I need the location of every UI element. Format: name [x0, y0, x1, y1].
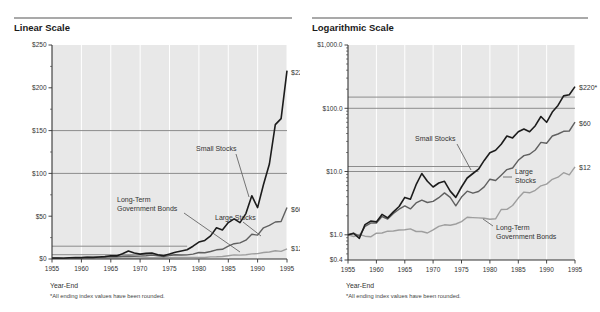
series-end-label: $60 — [579, 120, 591, 127]
y-tick-label: $1,000.0 — [317, 41, 343, 48]
series-annotation: Large Stocks — [215, 214, 256, 222]
series-annotation: Small Stocks — [415, 135, 456, 142]
linear-scale-chart: Linear Scale $250$200$150$100$50$0195519… — [0, 0, 300, 312]
footnote: *All ending index values have been round… — [50, 293, 165, 299]
x-tick-label: 1985 — [221, 265, 236, 272]
y-tick-label: $10.0 — [326, 168, 343, 175]
x-tick-label: 1985 — [511, 266, 526, 273]
x-tick-label: 1960 — [74, 265, 89, 272]
y-tick-label: $50 — [36, 213, 47, 220]
x-tick-label: 1965 — [398, 266, 413, 273]
series-annotation: Government Bonds — [496, 233, 557, 240]
x-tick-label: 1980 — [192, 265, 207, 272]
series-end-label: $12 — [291, 245, 300, 252]
plot-group: $250$200$150$100$50$01955196019651970197… — [32, 41, 300, 272]
x-tick-label: 1965 — [104, 265, 119, 272]
y-tick-label: $150 — [32, 127, 47, 134]
plot-group: $1,000.0$100.0$10.0$1.0$0.41955196019651… — [317, 41, 597, 273]
x-tick-label: 1990 — [250, 265, 265, 272]
x-tick-label: 1995 — [280, 265, 295, 272]
series-annotation: Long-Term — [496, 224, 530, 232]
x-tick-label: 1960 — [369, 266, 384, 273]
y-tick-label: $200 — [32, 84, 47, 91]
series-annotation: Government Bonds — [117, 205, 178, 212]
series-end-label: $220* — [579, 84, 598, 91]
x-tick-label: 1970 — [133, 265, 148, 272]
chart-title: Logarithmic Scale — [312, 22, 394, 33]
x-tick-label: 1955 — [45, 265, 60, 272]
x-tick-label: 1975 — [162, 265, 177, 272]
y-tick-label: $100.0 — [323, 105, 343, 112]
x-axis-label: Year-End — [50, 282, 78, 289]
y-tick-label: $100 — [32, 170, 47, 177]
series-annotation: Small Stocks — [196, 145, 237, 152]
series-annotation: Long-Term — [117, 196, 151, 204]
x-tick-label: 1970 — [426, 266, 441, 273]
series-end-label: $12 — [579, 164, 591, 171]
x-tick-label: 1990 — [539, 266, 554, 273]
x-tick-label: 1995 — [568, 266, 583, 273]
x-tick-label: 1975 — [454, 266, 469, 273]
series-end-label: $60 — [291, 206, 300, 213]
y-tick-label: $250 — [32, 41, 47, 48]
series-annotation: Large — [515, 168, 533, 176]
x-axis-label: Year-End — [346, 282, 374, 289]
footnote: *All ending index values have been round… — [346, 293, 461, 299]
logarithmic-scale-chart: Logarithmic Scale $1,000.0$100.0$10.0$1.… — [300, 0, 600, 312]
y-tick-label: $0 — [39, 255, 47, 262]
y-tick-label: $0.4 — [330, 256, 343, 263]
series-end-label: $220* — [291, 69, 300, 76]
chart-title: Linear Scale — [14, 22, 70, 33]
linear-vs-log-figure: Linear Scale $250$200$150$100$50$0195519… — [0, 0, 600, 312]
x-tick-label: 1980 — [483, 266, 498, 273]
series-annotation: Stocks — [515, 177, 537, 184]
x-tick-label: 1955 — [341, 266, 356, 273]
y-tick-label: $1.0 — [330, 231, 343, 238]
